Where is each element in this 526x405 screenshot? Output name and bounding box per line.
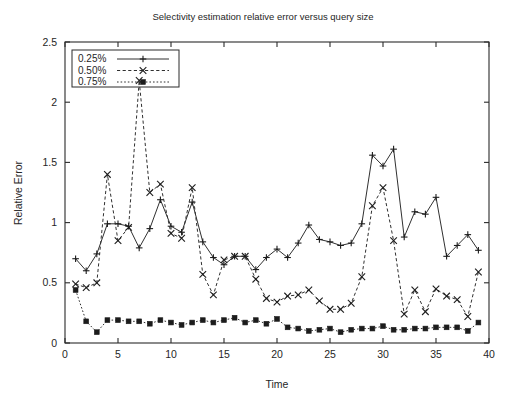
legend-sample-0-75pct [117, 80, 169, 85]
x-tick-label: 25 [324, 348, 336, 360]
series-layer [72, 77, 481, 334]
x-axis-title: Time [266, 378, 289, 390]
chart-legend: 0.25%0.50%0.75% [72, 50, 179, 87]
legend-sample-0-50pct [117, 67, 169, 74]
data-series-0-75pct [73, 288, 481, 335]
x-tick-label: 30 [377, 348, 389, 360]
relative-error-line-chart: Selectivity estimation relative error ve… [0, 0, 526, 405]
y-axis-ticks: 00.511.522.5 [42, 36, 489, 349]
legend-label-0-50pct: 0.50% [78, 65, 106, 76]
x-tick-label: 0 [62, 348, 68, 360]
y-tick-label: 0.5 [42, 276, 57, 288]
legend-label-0-75pct: 0.75% [78, 76, 106, 87]
x-tick-label: 20 [271, 348, 283, 360]
x-tick-label: 15 [218, 348, 230, 360]
y-axis-title: Relative Error [12, 160, 24, 225]
y-tick-label: 2.5 [42, 36, 57, 48]
data-series-0-25pct [72, 146, 481, 274]
y-tick-label: 1.5 [42, 156, 57, 168]
y-tick-label: 2 [51, 96, 57, 108]
chart-container: Selectivity estimation relative error ve… [0, 0, 526, 405]
x-tick-label: 40 [483, 348, 495, 360]
x-tick-label: 5 [115, 348, 121, 360]
chart-title: Selectivity estimation relative error ve… [152, 11, 373, 22]
y-tick-label: 1 [51, 216, 57, 228]
data-series-0-50pct [72, 77, 481, 320]
x-tick-label: 10 [165, 348, 177, 360]
x-tick-label: 35 [430, 348, 442, 360]
x-axis-ticks: 0510152025303540 [62, 42, 495, 360]
legend-sample-0-25pct [117, 56, 169, 63]
y-tick-label: 0 [51, 337, 57, 349]
legend-label-0-25pct: 0.25% [78, 53, 106, 64]
